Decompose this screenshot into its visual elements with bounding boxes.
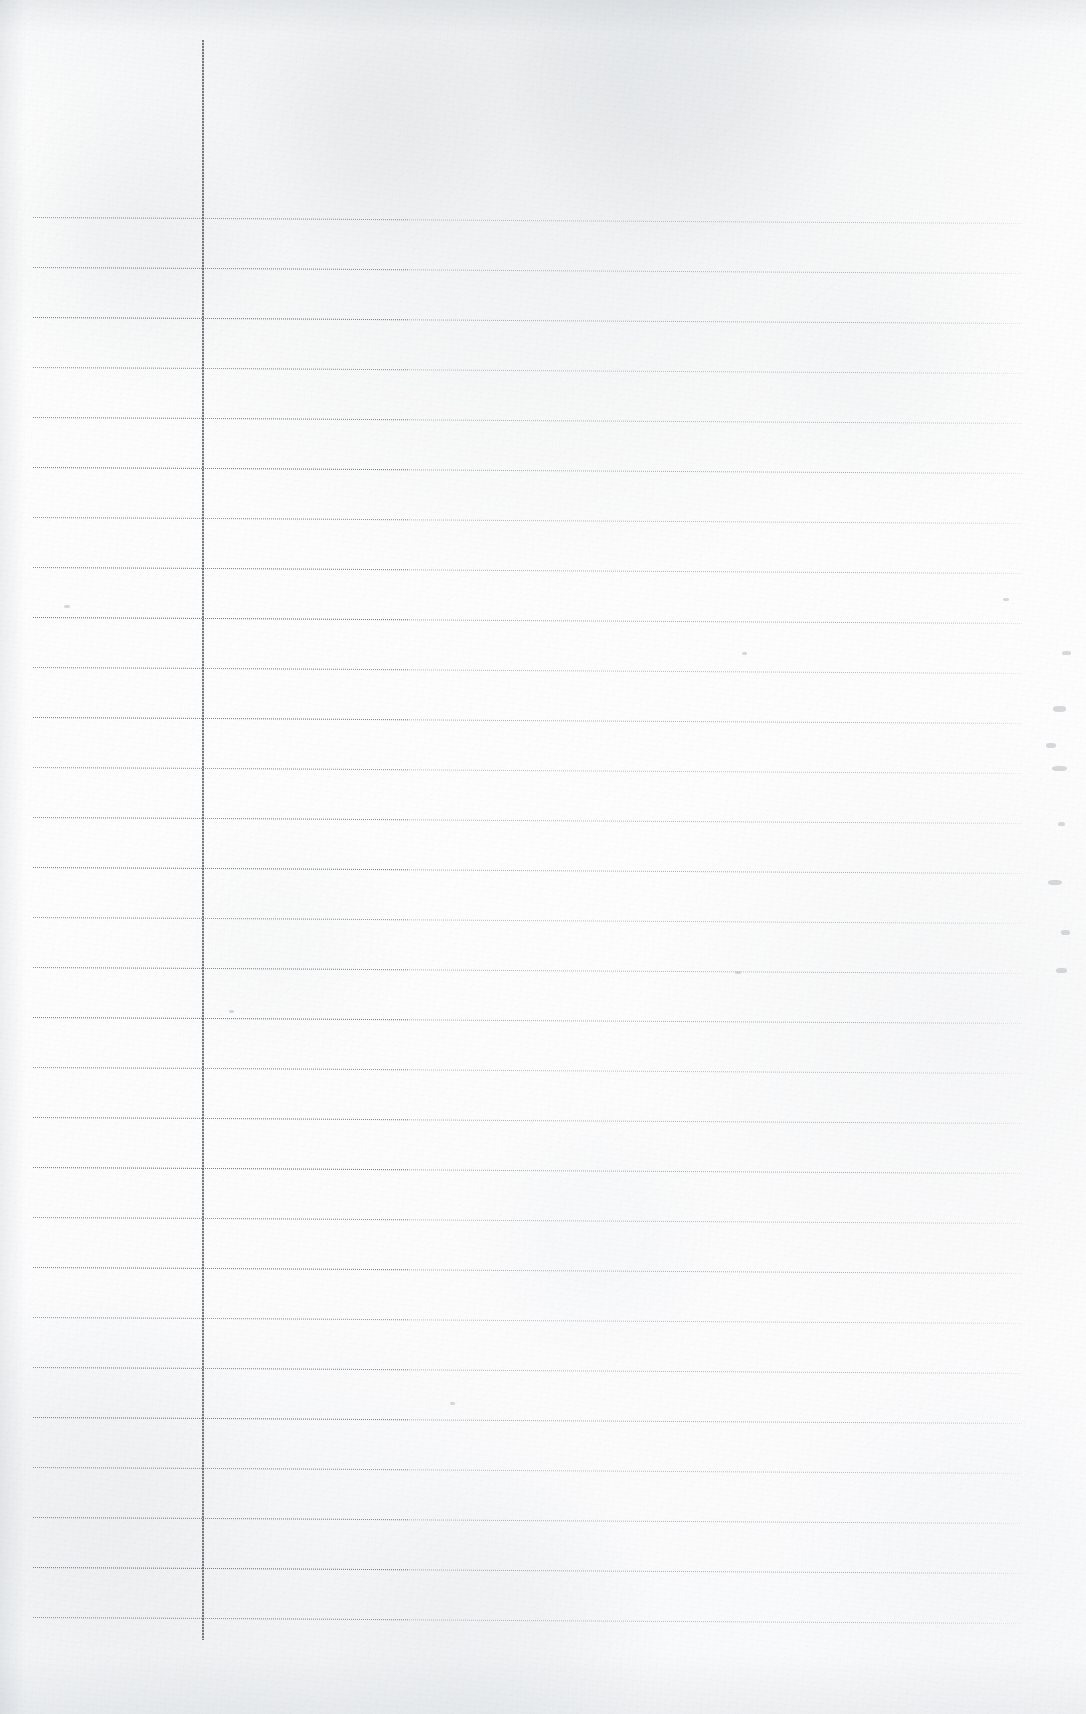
- paper-smudge-mark: [1053, 706, 1066, 712]
- paper-smudge-mark: [64, 605, 70, 608]
- paper-smudge-mark: [1056, 968, 1067, 973]
- paper-smudge-mark: [1061, 930, 1070, 935]
- page-body-text: [220, 230, 1000, 1610]
- paper-smudge-mark: [1052, 766, 1067, 771]
- paper-smudge-mark: [1058, 822, 1065, 826]
- paper-smudge-mark: [1048, 880, 1062, 885]
- paper-smudge-mark: [1046, 743, 1056, 748]
- scanned-notebook-page: [0, 0, 1086, 1714]
- paper-smudge-mark: [1003, 598, 1009, 601]
- paper-smudge-mark: [1062, 651, 1071, 655]
